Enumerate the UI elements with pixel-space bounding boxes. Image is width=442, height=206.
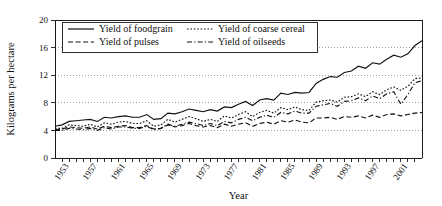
x-axis-ticks	[62, 158, 415, 162]
y-tick-label-12: 12	[39, 70, 48, 80]
y-axis-ticks	[51, 20, 55, 158]
y-tick-label-0: 0	[44, 153, 49, 163]
y-tick-label-16: 16	[39, 43, 49, 53]
x-tick-label-1989: 1989	[306, 161, 325, 182]
series-line-yield-of-foodgrain	[55, 41, 422, 127]
x-tick-label-1953: 1953	[52, 161, 71, 182]
x-tick-label-1993: 1993	[335, 161, 354, 182]
x-tick-label-1961: 1961	[109, 161, 128, 181]
y-tick-label-4: 4	[44, 126, 49, 136]
x-tick-label-1973: 1973	[193, 161, 212, 182]
y-tick-label-8: 8	[44, 98, 49, 108]
legend-label-2: Yield of pulses	[99, 36, 159, 47]
data-series-group	[55, 41, 422, 131]
x-tick-label-2001: 2001	[391, 161, 410, 181]
x-tick-label-1985: 1985	[278, 161, 297, 182]
x-tick-label-1957: 1957	[80, 161, 99, 182]
x-axis-tick-labels: 1953195719611965196919731977198119851989…	[52, 161, 409, 182]
x-tick-label-1965: 1965	[137, 161, 156, 182]
y-tick-label-20: 20	[39, 15, 49, 25]
legend-label-0: Yield of foodgrain	[99, 23, 173, 34]
x-axis-title: Year	[229, 190, 249, 201]
x-tick-label-1969: 1969	[165, 161, 184, 182]
x-tick-label-1977: 1977	[222, 161, 241, 182]
chart-container: 048121620 195319571961196519691973197719…	[0, 0, 442, 206]
x-tick-label-1997: 1997	[363, 161, 382, 182]
y-axis-title: Kilograms per hectare	[5, 42, 16, 136]
line-chart: 048121620 195319571961196519691973197719…	[0, 0, 442, 206]
chart-legend: Yield of foodgrainYield of coarse cereal…	[62, 22, 317, 52]
legend-label-3: Yield of oilseeds	[218, 36, 285, 47]
x-tick-label-1981: 1981	[250, 161, 269, 181]
y-axis-tick-labels: 048121620	[39, 15, 49, 163]
legend-label-1: Yield of coarse cereal	[218, 23, 305, 34]
series-line-yield-of-oilseeds	[55, 81, 422, 131]
